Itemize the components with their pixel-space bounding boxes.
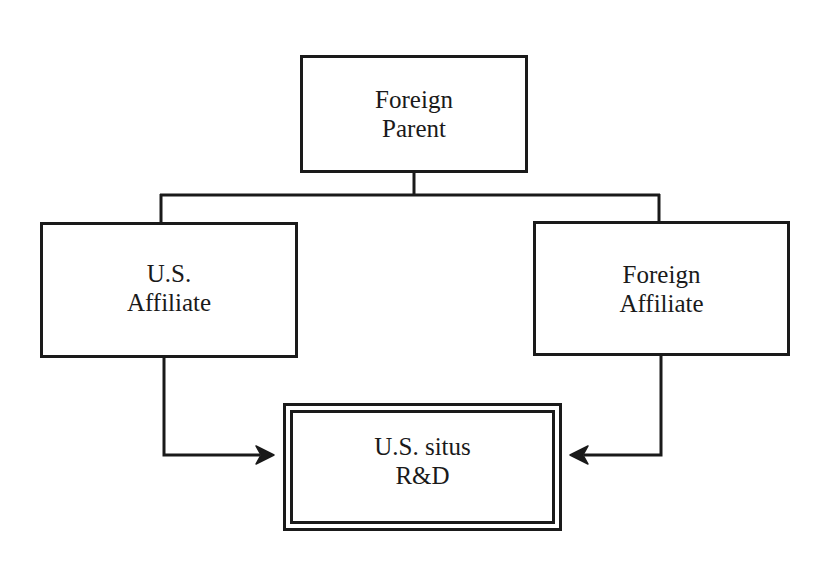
foreign-parent-box: Foreign Parent (300, 55, 528, 173)
us-affiliate-label-line2: Affiliate (127, 288, 211, 317)
us-affiliate-label-line1: U.S. (147, 259, 191, 288)
foreign-affiliate-box: Foreign Affiliate (533, 221, 790, 356)
foreign-affiliate-to-rd-arrow (584, 353, 661, 455)
ownership-diagram: Foreign Parent U.S. Affiliate Foreign Af… (0, 0, 825, 564)
us-situs-rd-label-line2: R&D (395, 461, 449, 490)
us-situs-rd-label-line1: U.S. situs (374, 432, 471, 461)
foreign-affiliate-label-line2: Affiliate (619, 289, 703, 318)
foreign-parent-label-line1: Foreign (375, 85, 453, 114)
us-affiliate-box: U.S. Affiliate (40, 222, 298, 358)
foreign-parent-label-line2: Parent (382, 114, 446, 143)
us-situs-rd-inner-border: U.S. situs R&D (290, 410, 555, 524)
us-affiliate-to-rd-arrow (164, 356, 260, 455)
us-situs-rd-box: U.S. situs R&D (283, 403, 562, 531)
foreign-affiliate-label-line1: Foreign (623, 260, 701, 289)
